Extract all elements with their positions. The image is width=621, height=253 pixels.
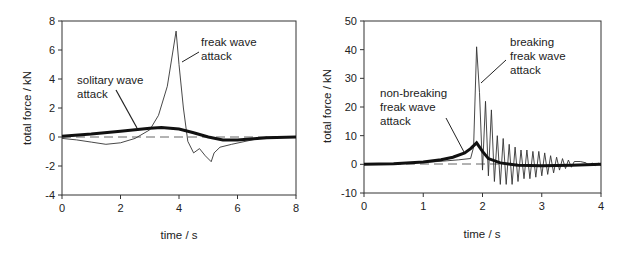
x-tick-label: 3 <box>539 200 545 212</box>
y-tick-label: 20 <box>345 101 357 113</box>
y-tick-label: 2 <box>49 102 55 114</box>
y-tick-label: 40 <box>345 44 357 56</box>
y-axis-right: 50403020100-10 <box>341 15 364 199</box>
y-tick-label: 4 <box>49 73 55 85</box>
x-tick-label: 2 <box>479 200 485 212</box>
x-tick-label: 4 <box>598 200 604 212</box>
x-axis-title-right: time / s <box>463 228 500 240</box>
y-tick-label: 6 <box>49 44 55 56</box>
chart-right: 50403020100-10 01234 total force / kN ti… <box>321 15 604 240</box>
y-tick-label: 8 <box>49 15 55 27</box>
x-axis-left: 02468 <box>59 195 299 214</box>
y-tick-label: -2 <box>45 160 55 172</box>
y-axis-title-left: total force / kN <box>21 71 33 145</box>
x-tick-label: 6 <box>234 202 240 214</box>
figure: 86420-2-4 02468 total force / kN time / … <box>0 0 621 253</box>
x-tick-label: 2 <box>117 202 123 214</box>
x-tick-label: 1 <box>420 200 426 212</box>
y-axis-left: 86420-2-4 <box>45 15 62 201</box>
y-tick-label: -4 <box>45 189 55 201</box>
x-tick-label: 4 <box>176 202 182 214</box>
y-tick-label: 0 <box>49 131 55 143</box>
x-axis-right: 01234 <box>361 193 604 212</box>
y-tick-label: 0 <box>351 158 357 170</box>
x-tick-label: 0 <box>59 202 65 214</box>
x-tick-label: 0 <box>361 200 367 212</box>
y-tick-label: 10 <box>345 130 357 142</box>
chart-left: 86420-2-4 02468 total force / kN time / … <box>21 15 299 241</box>
y-tick-label: -10 <box>341 187 357 199</box>
y-tick-label: 30 <box>345 72 357 84</box>
x-axis-title-left: time / s <box>160 229 197 241</box>
y-tick-label: 50 <box>345 15 357 27</box>
x-tick-label: 8 <box>293 202 299 214</box>
plot-area-left <box>62 21 296 195</box>
y-axis-title-right: total force / kN <box>321 69 333 143</box>
